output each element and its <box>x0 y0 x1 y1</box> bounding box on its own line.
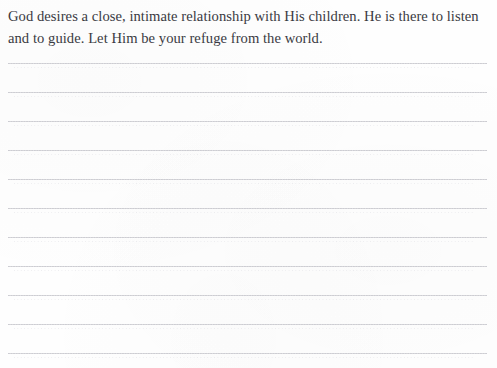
journal-page: God desires a close, intimate relationsh… <box>0 0 497 368</box>
writing-line-11[interactable] <box>8 353 487 355</box>
writing-line-10[interactable] <box>8 324 487 326</box>
writing-lines-area <box>0 0 497 368</box>
writing-line-6[interactable] <box>8 208 487 210</box>
writing-line-3[interactable] <box>8 121 487 123</box>
writing-line-8[interactable] <box>8 266 487 268</box>
writing-line-1[interactable] <box>8 63 487 65</box>
writing-line-9[interactable] <box>8 295 487 297</box>
writing-line-7[interactable] <box>8 237 487 239</box>
writing-line-2[interactable] <box>8 92 487 94</box>
writing-line-5[interactable] <box>8 179 487 181</box>
writing-line-4[interactable] <box>8 150 487 152</box>
